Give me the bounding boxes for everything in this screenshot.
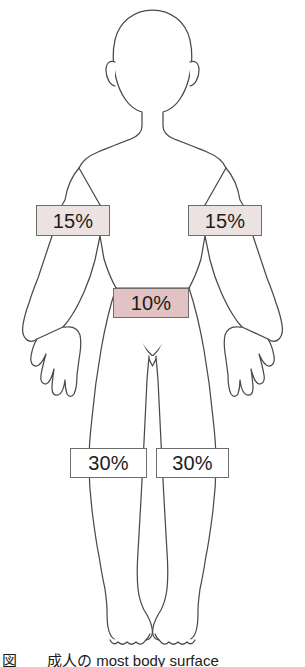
right-ear-outline	[190, 61, 199, 86]
percent-value-right-arm: 15%	[205, 210, 246, 230]
percent-label-left-arm: 15%	[36, 205, 110, 236]
left-hand-outline	[31, 327, 81, 396]
percent-value-right-leg: 30%	[172, 453, 213, 473]
percent-value-trunk: 10%	[131, 293, 172, 313]
percent-label-trunk: 10%	[113, 288, 189, 318]
figure-caption: 図 成人の most body surface	[0, 653, 305, 667]
percent-label-left-leg: 30%	[70, 448, 147, 478]
percent-value-left-leg: 30%	[88, 453, 129, 473]
percent-label-right-leg: 30%	[156, 448, 229, 478]
left-ear-outline	[106, 61, 115, 86]
body-diagram-figure: 15% 15% 10% 30% 30% 図 成人の most body surf…	[0, 0, 305, 667]
right-hand-outline	[224, 327, 274, 396]
percent-value-left-arm: 15%	[53, 210, 94, 230]
percent-label-right-arm: 15%	[188, 205, 262, 236]
head-outline	[113, 10, 192, 145]
body-outline-illustration	[0, 0, 305, 667]
